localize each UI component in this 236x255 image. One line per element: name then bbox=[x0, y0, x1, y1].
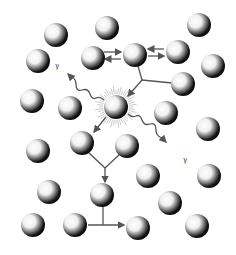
merge-line bbox=[88, 152, 105, 168]
particle bbox=[123, 43, 147, 67]
particle bbox=[63, 213, 87, 237]
gamma-ray-left bbox=[68, 74, 104, 100]
particle bbox=[166, 40, 190, 64]
particle bbox=[26, 139, 50, 163]
particle bbox=[26, 49, 50, 73]
particle bbox=[90, 183, 114, 207]
particle bbox=[136, 164, 160, 188]
particle bbox=[21, 213, 45, 237]
particle bbox=[70, 131, 94, 155]
particle bbox=[201, 54, 225, 78]
merge-line bbox=[105, 154, 120, 168]
gamma-label-left: γ bbox=[55, 62, 59, 70]
particle bbox=[187, 13, 211, 37]
particle bbox=[20, 89, 44, 113]
merge-line bbox=[138, 66, 142, 80]
particle bbox=[44, 23, 68, 47]
particles-layer bbox=[20, 13, 225, 240]
particle bbox=[197, 164, 221, 188]
capture-arrow bbox=[128, 80, 142, 96]
particle bbox=[58, 96, 82, 120]
decay-arrow bbox=[94, 117, 106, 132]
particle bbox=[185, 214, 209, 238]
excited-nucleus bbox=[104, 95, 128, 119]
particle bbox=[115, 134, 139, 158]
particle bbox=[95, 16, 119, 40]
particle bbox=[196, 117, 220, 141]
particle bbox=[81, 46, 105, 70]
gamma-label-right: γ bbox=[183, 156, 187, 164]
particle bbox=[171, 72, 195, 96]
particle bbox=[126, 216, 150, 240]
particle bbox=[37, 180, 61, 204]
particle bbox=[158, 191, 182, 215]
particle-interaction-diagram: γ γ bbox=[0, 0, 236, 255]
merge-line bbox=[142, 80, 172, 83]
particle bbox=[154, 101, 178, 125]
